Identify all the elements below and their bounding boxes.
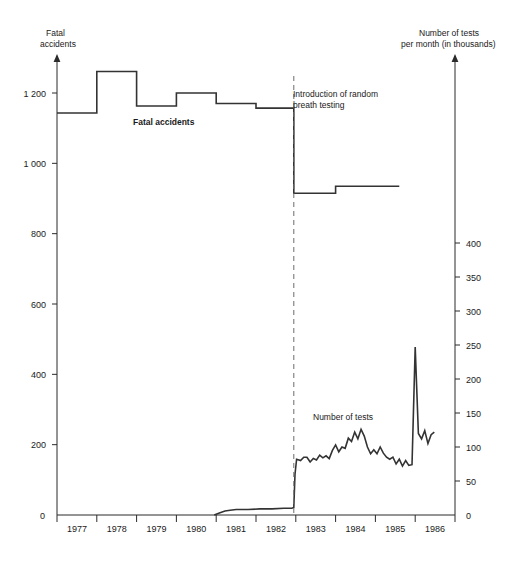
right-tick-label-200: 200: [466, 375, 481, 385]
left-tick-label-200: 200: [31, 440, 46, 450]
x-tick-label-1983: 1983: [306, 524, 326, 534]
series-path-fatal-accidents: [57, 72, 399, 194]
right-tick-label-400: 400: [466, 239, 481, 249]
x-tick-label-1981: 1981: [226, 524, 246, 534]
left-tick-label-0: 0: [40, 511, 45, 521]
left-axis-arrow-icon: [54, 54, 61, 62]
right-tick-label-300: 300: [466, 307, 481, 317]
left-tick-label-600: 600: [31, 300, 46, 310]
left-tick-label-1200: 1 200: [23, 89, 46, 99]
data-series: [57, 72, 434, 515]
left-tick-label-400: 400: [31, 370, 46, 380]
right-axis: 050100150200250300350400: [452, 54, 481, 521]
right-tick-label-250: 250: [466, 341, 481, 351]
x-tick-label-1978: 1978: [107, 524, 127, 534]
chart-canvas: 02004006008001 0001 200 0501001502002503…: [0, 0, 516, 567]
x-tick-label-1986: 1986: [425, 524, 445, 534]
left-tick-label-1000: 1 000: [23, 159, 46, 169]
x-tick-label-1977: 1977: [67, 524, 87, 534]
right-axis-arrow-icon: [452, 54, 459, 62]
left-tick-label-800: 800: [31, 229, 46, 239]
x-axis: 1977197819791980198119821983198419851986: [57, 515, 455, 534]
fatal-accidents-breath-testing-chart: 02004006008001 0001 200 0501001502002503…: [0, 0, 516, 567]
x-tick-label-1979: 1979: [146, 524, 166, 534]
right-tick-label-350: 350: [466, 273, 481, 283]
left-axis: 02004006008001 0001 200: [23, 54, 60, 521]
right-tick-label-100: 100: [466, 443, 481, 453]
x-tick-label-1985: 1985: [385, 524, 405, 534]
x-tick-label-1980: 1980: [186, 524, 206, 534]
x-tick-label-1984: 1984: [345, 524, 365, 534]
right-tick-label-0: 0: [466, 511, 471, 521]
series-path-number-of-tests: [214, 347, 434, 515]
x-tick-label-1982: 1982: [266, 524, 286, 534]
right-tick-label-150: 150: [466, 409, 481, 419]
right-tick-label-50: 50: [466, 477, 476, 487]
